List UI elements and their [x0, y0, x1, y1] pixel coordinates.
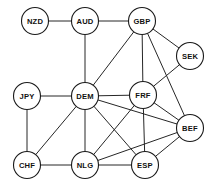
graph-node-esp[interactable]: ESP: [132, 152, 159, 179]
graph-edge: [153, 29, 179, 48]
graph-edge: [143, 108, 144, 151]
graph-node-nzd[interactable]: NZD: [22, 8, 49, 35]
node-label: GBP: [133, 17, 150, 26]
graph-node-gbp[interactable]: GBP: [129, 8, 156, 35]
graph-edge: [99, 95, 130, 96]
graph-node-frf[interactable]: FRF: [130, 82, 157, 109]
graph-edge: [142, 35, 143, 82]
graph-edge: [36, 106, 77, 154]
node-label: CHF: [19, 161, 35, 170]
graph-node-chf[interactable]: CHF: [14, 152, 41, 179]
node-label: DEM: [76, 92, 93, 101]
graph-node-dem[interactable]: DEM: [72, 83, 99, 110]
node-label: ESP: [137, 161, 153, 170]
edges-layer: [27, 21, 184, 165]
graph-node-nlg[interactable]: NLG: [72, 152, 99, 179]
graph-edge: [154, 103, 179, 120]
node-label: AUD: [76, 17, 93, 26]
network-graph-canvas: NZDAUDGBPSEKJPYDEMFRFBEFCHFNLGESP: [0, 0, 217, 188]
graph-edge: [153, 65, 179, 87]
graph-node-aud[interactable]: AUD: [72, 8, 99, 35]
graph-node-jpy[interactable]: JPY: [14, 83, 41, 110]
node-label: FRF: [135, 91, 151, 100]
graph-edge: [93, 32, 134, 86]
node-label: SEK: [182, 52, 199, 61]
graph-diagram: NZDAUDGBPSEKJPYDEMFRFBEFCHFNLGESP: [0, 0, 217, 188]
graph-node-bef[interactable]: BEF: [177, 115, 204, 142]
graph-edge: [155, 137, 179, 157]
nodes-layer: NZDAUDGBPSEKJPYDEMFRFBEFCHFNLGESP: [14, 8, 204, 179]
node-label: BEF: [182, 124, 198, 133]
graph-edge: [94, 106, 136, 155]
node-label: JPY: [20, 92, 35, 101]
node-label: NZD: [27, 17, 44, 26]
graph-node-sek[interactable]: SEK: [177, 43, 204, 70]
node-label: NLG: [77, 161, 94, 170]
